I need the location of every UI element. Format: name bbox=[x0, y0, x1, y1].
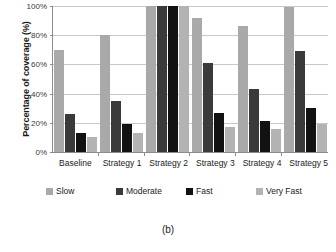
figure-panel: Percentage of coverage (%) 0%20%40%60%80… bbox=[0, 0, 336, 252]
chart-legend: SlowModerateFastVery Fast bbox=[46, 186, 326, 196]
bar-groups bbox=[53, 6, 328, 152]
x-axis-tick-mark bbox=[189, 152, 190, 156]
bar-group bbox=[282, 6, 328, 152]
y-axis-tick-label: 100% bbox=[27, 2, 47, 11]
x-axis-tick-label: Strategy 4 bbox=[239, 158, 286, 168]
legend-item: Fast bbox=[186, 186, 256, 196]
bar bbox=[271, 129, 281, 152]
legend-label: Slow bbox=[56, 186, 74, 196]
bar bbox=[238, 26, 248, 152]
bar bbox=[284, 7, 294, 152]
x-axis-tick-label: Strategy 3 bbox=[192, 158, 239, 168]
legend-item: Moderate bbox=[116, 186, 186, 196]
bar-chart: Percentage of coverage (%) 0%20%40%60%80… bbox=[4, 6, 332, 211]
bar bbox=[168, 6, 178, 152]
y-axis-tick-mark bbox=[50, 152, 53, 153]
x-axis-tick-mark bbox=[144, 152, 145, 156]
x-axis-tick-mark bbox=[235, 152, 236, 156]
legend-label: Very Fast bbox=[266, 186, 302, 196]
y-axis-tick-label: 80% bbox=[31, 31, 47, 40]
bar-group bbox=[99, 6, 145, 152]
bar bbox=[295, 51, 305, 152]
bar-group bbox=[145, 6, 191, 152]
figure-caption: (b) bbox=[0, 224, 336, 235]
y-axis-tick-label: 20% bbox=[31, 118, 47, 127]
x-axis-tick-label: Baseline bbox=[52, 158, 99, 168]
bar bbox=[76, 133, 86, 152]
bar bbox=[133, 133, 143, 152]
bar bbox=[260, 121, 270, 152]
bar-group bbox=[190, 6, 236, 152]
bar bbox=[179, 6, 189, 152]
bar bbox=[65, 114, 75, 152]
bar bbox=[214, 113, 224, 152]
legend-swatch-icon bbox=[116, 188, 123, 195]
plot-area bbox=[52, 6, 328, 153]
x-axis-tick-label: Strategy 2 bbox=[145, 158, 192, 168]
bar bbox=[192, 18, 202, 152]
x-axis-tick-mark bbox=[98, 152, 99, 156]
x-axis-tick-label: Strategy 5 bbox=[285, 158, 332, 168]
x-axis-tick-label: Strategy 1 bbox=[99, 158, 146, 168]
x-axis-tick-mark bbox=[281, 152, 282, 156]
bar bbox=[225, 127, 235, 152]
bar bbox=[122, 124, 132, 152]
bar bbox=[146, 6, 156, 152]
bar bbox=[317, 124, 327, 152]
legend-item: Very Fast bbox=[256, 186, 326, 196]
bar bbox=[111, 101, 121, 152]
legend-swatch-icon bbox=[46, 188, 53, 195]
bar bbox=[249, 89, 259, 152]
bar bbox=[54, 50, 64, 152]
plot-wrapper: 0%20%40%60%80%100% bbox=[24, 6, 328, 166]
x-axis-tick-labels: BaselineStrategy 1Strategy 2Strategy 3St… bbox=[52, 158, 332, 168]
bar bbox=[203, 63, 213, 152]
legend-label: Fast bbox=[196, 186, 213, 196]
bar bbox=[87, 137, 97, 152]
legend-item: Slow bbox=[46, 186, 116, 196]
legend-swatch-icon bbox=[186, 188, 193, 195]
bar bbox=[157, 6, 167, 152]
y-axis-tick-labels: 0%20%40%60%80%100% bbox=[24, 6, 50, 152]
bar bbox=[100, 35, 110, 152]
y-axis-tick-label: 60% bbox=[31, 60, 47, 69]
legend-swatch-icon bbox=[256, 188, 263, 195]
bar bbox=[306, 108, 316, 152]
bar-group bbox=[236, 6, 282, 152]
y-axis-tick-label: 40% bbox=[31, 89, 47, 98]
legend-label: Moderate bbox=[126, 186, 162, 196]
y-axis-tick-label: 0% bbox=[35, 148, 47, 157]
bar-group bbox=[53, 6, 99, 152]
